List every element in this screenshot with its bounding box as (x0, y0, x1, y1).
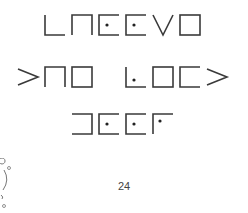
pigpen-glyph-open-right-dot (124, 13, 148, 37)
pigpen-glyph-open-bottom (70, 13, 94, 37)
cipher-row (0, 112, 248, 142)
pigpen-glyph-corner-tl-dot (151, 112, 175, 136)
pigpen-glyph-corner-bl (43, 13, 67, 37)
pigpen-glyph-corner-bl-dot (124, 65, 148, 89)
cipher-row (0, 13, 248, 43)
pigpen-glyph-open-left (70, 112, 94, 136)
cipher-row (0, 65, 248, 95)
pigpen-glyph-box (70, 65, 94, 89)
pigpen-glyph-open-right (178, 65, 202, 89)
pigpen-glyph-open-right-dot (124, 112, 148, 136)
pigpen-glyph-chevron-down (151, 13, 175, 37)
pigpen-glyph-box (178, 13, 202, 37)
pigpen-glyph-box (151, 65, 175, 89)
pigpen-glyph-chevron-right (205, 65, 229, 89)
pigpen-glyph-open-right-dot (97, 112, 121, 136)
page-number: 24 (0, 180, 248, 192)
pigpen-glyph-open-right-dot (97, 13, 121, 37)
pigpen-glyph-open-bottom (43, 65, 67, 89)
pigpen-glyph-chevron-right (16, 65, 40, 89)
